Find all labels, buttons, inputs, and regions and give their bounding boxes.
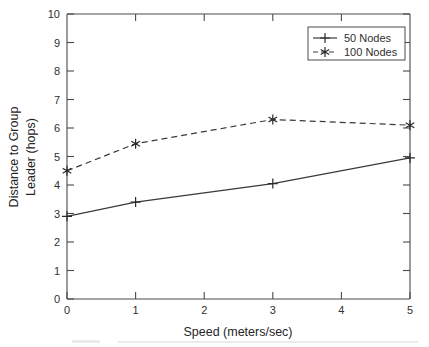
legend-label-50-nodes: 50 Nodes — [344, 32, 392, 44]
y-tick-label: 6 — [54, 122, 60, 134]
y-tick-label: 4 — [54, 179, 60, 191]
y-tick-label: 9 — [54, 37, 60, 49]
line-chart: 10 9 8 7 6 5 4 3 2 1 0 0 1 — [0, 0, 429, 347]
scan-artifact — [118, 341, 418, 343]
legend-label-100-nodes: 100 Nodes — [344, 46, 398, 58]
y-tick-label: 2 — [54, 236, 60, 248]
x-axis-title: Speed (meters/sec) — [183, 325, 292, 339]
y-tick-label: 10 — [48, 8, 60, 20]
x-tick-label: 4 — [338, 304, 344, 316]
x-tick-label: 2 — [201, 304, 207, 316]
y-tick-label: 3 — [54, 208, 60, 220]
y-axis-title-line1: Distance to Group — [7, 107, 21, 208]
y-tick-label: 1 — [54, 265, 60, 277]
y-tick-label: 0 — [54, 293, 60, 305]
scan-artifact — [72, 340, 100, 343]
chart-figure: 10 9 8 7 6 5 4 3 2 1 0 0 1 — [0, 0, 429, 347]
x-tick-label: 1 — [133, 304, 139, 316]
x-tick-label: 3 — [270, 304, 276, 316]
x-tick-label: 0 — [64, 304, 70, 316]
y-tick-label: 5 — [54, 151, 60, 163]
y-tick-label: 7 — [54, 94, 60, 106]
y-tick-label: 8 — [54, 65, 60, 77]
x-tick-label: 5 — [407, 304, 413, 316]
legend-entry-50-nodes: 50 Nodes — [313, 32, 392, 44]
chart-legend: 50 Nodes 100 Nodes — [308, 27, 405, 60]
y-axis-title-line2: Leader (hops) — [24, 118, 38, 196]
